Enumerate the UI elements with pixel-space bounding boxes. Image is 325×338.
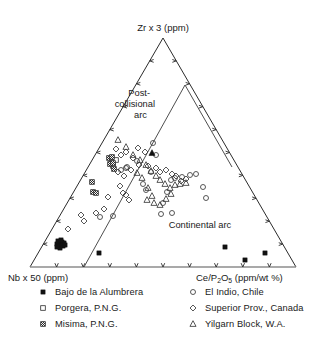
data-point <box>110 155 115 160</box>
data-point <box>170 211 175 216</box>
legend-item[interactable]: Misima, P.N.G. <box>36 316 186 332</box>
data-series <box>115 137 189 208</box>
data-point <box>111 161 116 166</box>
legend-column-left: Bajo de la AlumbreraPorgera, P.N.G.Misim… <box>36 284 186 332</box>
legend-item[interactable]: El Indio, Chile <box>186 284 325 300</box>
data-point <box>123 149 129 155</box>
legend-swatch <box>36 285 50 299</box>
axis-tick-right <box>172 61 176 62</box>
data-point <box>135 145 141 151</box>
data-point <box>157 169 163 175</box>
axis-tick-left <box>70 198 74 199</box>
data-point <box>163 167 169 173</box>
data-point <box>153 165 159 171</box>
legend-item-label: Misima, P.N.G. <box>50 319 118 329</box>
legend-swatch <box>36 301 50 315</box>
legend-marker-glyph <box>190 305 196 311</box>
right-axis-label-tail: (ppm/wt %) <box>232 272 283 283</box>
data-series <box>149 150 155 156</box>
data-point <box>204 196 209 201</box>
data-point <box>118 152 124 158</box>
right-axis-label-mid: O <box>221 272 228 283</box>
apex-axis-label: Zr x 3 (ppm) <box>137 22 189 33</box>
data-point <box>134 170 140 176</box>
legend-marker-filled-square-icon <box>36 285 50 299</box>
legend-swatch <box>186 301 200 315</box>
axis-tick-right <box>186 84 190 85</box>
data-point <box>126 197 132 203</box>
data-point <box>157 202 163 208</box>
axis-tick-right <box>252 198 256 199</box>
data-point <box>65 226 71 232</box>
data-point <box>159 212 164 217</box>
legend-column-right: El Indio, ChileSuperior Prov., CanadaYil… <box>186 284 325 332</box>
field-label-post-collisional: Post- collisional arc <box>115 88 155 120</box>
data-point <box>98 215 103 220</box>
legend-swatch <box>186 317 200 331</box>
data-point <box>113 146 119 152</box>
legend-marker-open-diamond-icon <box>186 301 200 315</box>
data-point <box>141 182 146 187</box>
data-point <box>263 251 267 255</box>
axis-tick-left <box>97 153 101 154</box>
axis-tick-right <box>265 221 269 222</box>
legend-marker-open-triangle-icon <box>186 317 200 331</box>
data-point <box>105 194 111 200</box>
data-point <box>151 200 157 206</box>
data-point <box>194 172 199 177</box>
data-point <box>243 258 247 262</box>
data-point <box>117 183 123 189</box>
data-point <box>78 212 84 218</box>
axis-ticks <box>43 60 282 267</box>
axis-tick-left <box>110 130 114 131</box>
axis-tick-right <box>212 130 216 131</box>
axis-tick-left <box>150 61 154 62</box>
data-series <box>90 155 117 196</box>
data-series <box>65 145 189 232</box>
data-point <box>201 185 206 190</box>
data-point <box>55 245 59 249</box>
axis-tick-left <box>136 84 140 85</box>
axis-tick-left <box>43 244 47 245</box>
legend-marker-glyph <box>191 290 196 295</box>
data-point <box>188 173 193 178</box>
data-point <box>149 193 155 199</box>
data-point <box>59 238 63 242</box>
ternary-diagram-figure: Zr x 3 (ppm) Nb x 50 (ppm) Ce/P2O5 (ppm/… <box>0 0 325 338</box>
legend-marker-glyph <box>41 306 46 311</box>
data-point <box>137 157 143 163</box>
legend-marker-open-square-icon <box>36 301 50 315</box>
legend-item[interactable]: Yilgarn Block, W.A. <box>186 316 325 332</box>
legend: Bajo de la AlumbreraPorgera, P.N.G.Misim… <box>0 284 325 338</box>
axis-tick-left <box>57 221 61 222</box>
data-point <box>101 206 107 212</box>
legend-swatch <box>186 285 200 299</box>
legend-item[interactable]: Bajo de la Alumbrera <box>36 284 186 300</box>
legend-item[interactable]: Superior Prov., Canada <box>186 300 325 316</box>
data-point <box>90 180 95 185</box>
legend-item[interactable]: Porgera, P.N.G. <box>36 300 186 316</box>
legend-item-label: El Indio, Chile <box>200 287 264 297</box>
axis-tick-right <box>279 244 283 245</box>
divider-continental-upper <box>185 85 232 167</box>
legend-item-label: Porgera, P.N.G. <box>50 303 121 313</box>
data-point <box>63 243 67 247</box>
legend-item-label: Bajo de la Alumbrera <box>50 287 143 297</box>
data-point <box>112 167 117 172</box>
data-point <box>157 177 163 183</box>
data-point <box>97 251 101 255</box>
legend-item-label: Yilgarn Block, W.A. <box>200 319 285 329</box>
legend-marker-hatched-square-icon <box>36 317 50 331</box>
data-markers <box>55 137 267 262</box>
legend-swatch <box>36 317 50 331</box>
axis-tick-left <box>83 175 87 176</box>
legend-marker-open-circle-icon <box>186 285 200 299</box>
axis-tick-right <box>199 107 203 108</box>
data-series <box>55 238 267 262</box>
axis-tick-right <box>239 175 243 176</box>
legend-item-label: Superior Prov., Canada <box>200 303 304 313</box>
axis-tick-right <box>226 153 230 154</box>
data-point <box>121 173 127 179</box>
post-collisional-line-1: Post- <box>128 88 150 98</box>
data-point <box>223 245 227 249</box>
